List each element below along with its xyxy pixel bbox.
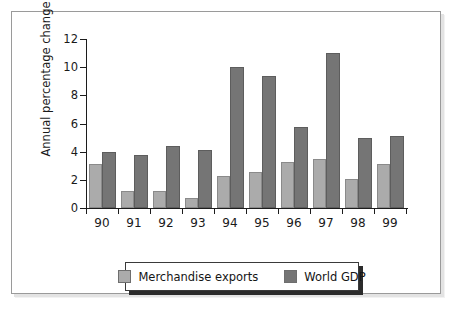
y-tick-label-text: 10 (56, 62, 78, 74)
bar-merchandise-exports-91 (121, 191, 135, 208)
bar-world-gdp-94 (230, 67, 244, 208)
bar-merchandise-exports-98 (345, 179, 359, 208)
chart-legend: Merchandise exportsWorld GDP (125, 262, 359, 291)
bar-merchandise-exports-95 (249, 172, 263, 208)
bar-merchandise-exports-94 (217, 176, 231, 208)
y-tick-label: 10 (56, 62, 78, 72)
x-axis-line (86, 208, 408, 209)
x-tick-label-93: 93 (183, 216, 213, 230)
legend-swatch-icon (284, 270, 297, 283)
bar-world-gdp-99 (390, 136, 404, 208)
legend-swatch-icon (118, 270, 131, 283)
x-tick-label-96: 96 (279, 216, 309, 230)
x-tick-mark (374, 209, 375, 214)
x-tick-label-92: 92 (151, 216, 181, 230)
legend-label: Merchandise exports (138, 270, 258, 284)
bar-world-gdp-95 (262, 76, 276, 208)
bar-world-gdp-96 (294, 127, 308, 208)
x-tick-mark (310, 209, 311, 214)
y-tick-label-text: 4 (56, 147, 78, 159)
x-tick-label-94: 94 (215, 216, 245, 230)
y-tick-label: 4 (56, 147, 78, 157)
bar-merchandise-exports-99 (377, 164, 391, 208)
y-tick-label-text: 2 (56, 175, 78, 187)
x-tick-mark (182, 209, 183, 214)
y-tick-label: 12 (56, 34, 78, 44)
legend-label: World GDP (304, 270, 365, 284)
x-tick-mark (246, 209, 247, 214)
bar-world-gdp-90 (102, 152, 116, 208)
y-tick-label-text: 0 (56, 203, 78, 215)
x-tick-mark (342, 209, 343, 214)
bar-merchandise-exports-92 (153, 191, 167, 208)
x-tick-label-91: 91 (119, 216, 149, 230)
bar-world-gdp-92 (166, 146, 180, 208)
x-tick-mark (118, 209, 119, 214)
x-tick-mark (150, 209, 151, 214)
x-tick-label-99: 99 (375, 216, 405, 230)
y-tick-label: 0 (56, 203, 78, 213)
y-tick-label-text: 8 (56, 90, 78, 102)
y-tick-label: 2 (56, 175, 78, 185)
x-tick-label-98: 98 (343, 216, 373, 230)
bar-merchandise-exports-96 (281, 162, 295, 208)
y-tick-label-text: 12 (56, 34, 78, 46)
x-tick-mark (214, 209, 215, 214)
legend-item-merchandise-exports: Merchandise exports (118, 270, 258, 284)
x-tick-mark (406, 209, 407, 214)
x-tick-label-90: 90 (87, 216, 117, 230)
x-tick-label-97: 97 (311, 216, 341, 230)
bar-world-gdp-98 (358, 138, 372, 208)
x-tick-mark (278, 209, 279, 214)
x-tick-mark (86, 209, 87, 214)
chart-figure-frame: Annual percentage change 024681012 90919… (11, 11, 441, 294)
legend-item-world-gdp: World GDP (284, 270, 365, 284)
x-tick-label-95: 95 (247, 216, 277, 230)
bar-world-gdp-97 (326, 53, 340, 208)
y-tick-label: 6 (56, 119, 78, 129)
bar-world-gdp-91 (134, 155, 148, 208)
bar-merchandise-exports-97 (313, 159, 327, 208)
bar-merchandise-exports-90 (89, 164, 103, 208)
plot-area (86, 39, 406, 208)
bar-merchandise-exports-93 (185, 198, 199, 208)
y-tick-label: 8 (56, 90, 78, 100)
y-axis-title: Annual percentage change (39, 0, 53, 159)
y-tick-label-text: 6 (56, 119, 78, 131)
bar-world-gdp-93 (198, 150, 212, 208)
